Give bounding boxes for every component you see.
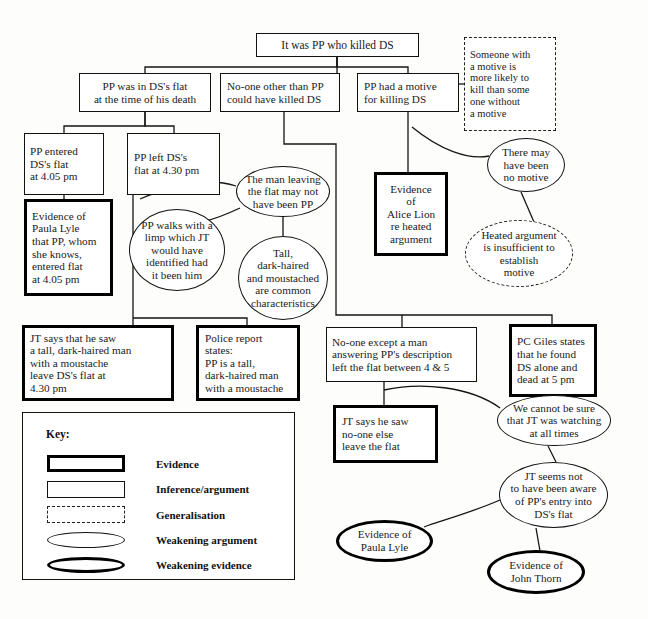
key-label: Evidence <box>156 458 199 470</box>
diagram-node-label: Police report states: PP is a tall, dark… <box>205 332 291 395</box>
diagram-node-n17[interactable]: No-one except a man answering PP's descr… <box>326 327 477 382</box>
diagram-node-label: PP had a motive for killing DS <box>364 80 452 105</box>
connector-n13-to-n14 <box>521 192 534 222</box>
connector-n21-to-n23 <box>536 528 540 551</box>
key-swatch-generalisation-icon <box>47 506 125 523</box>
diagram-node-label: PP entered DS's flat at 4.05 pm <box>30 145 98 183</box>
diagram-node-n8[interactable]: Evidence of Paula Lyle that PP, whom she… <box>24 199 113 296</box>
diagram-node-n19[interactable]: JT says he saw no-one else leave the fla… <box>333 405 438 463</box>
diagram-node-label: Someone with a motive is more likely to … <box>470 49 550 120</box>
diagram-node-label: Evidence of John Thorn <box>494 559 578 584</box>
diagram-node-n21[interactable]: JT seems not to have been aware of PP's … <box>499 462 608 528</box>
key-swatch-evidence-icon <box>47 455 125 472</box>
diagram-node-label: PP was in DS's flat at the time of his d… <box>84 80 206 105</box>
diagram-node-label: JT says that he saw a tall, dark-haired … <box>30 332 166 395</box>
key-label: Weakening argument <box>156 534 257 546</box>
diagram-node-label: PC Giles states that he found DS alone a… <box>517 335 589 385</box>
connector-n17-to-n18 <box>402 315 552 324</box>
diagram-node-label: No-one other than PP could have killed D… <box>227 80 333 105</box>
key-label: Weakening evidence <box>156 559 252 571</box>
key-row-inference: Inference/argument <box>47 481 249 498</box>
diagram-node-label: There may have been no motive <box>492 146 560 184</box>
key-row-evidence: Evidence <box>47 455 199 472</box>
diagram-node-label: PP walks with a limp which JT would have… <box>136 219 218 282</box>
diagram-node-n10[interactable]: PP walks with a limp which JT would have… <box>129 209 225 291</box>
diagram-node-label: JT says he saw no-one else leave the fla… <box>342 415 429 453</box>
diagram-node-n22[interactable]: Evidence of Paula Lyle <box>336 520 433 562</box>
diagram-node-n14[interactable]: Heated argument is insufficient to estab… <box>465 220 573 287</box>
key-swatch-inference-icon <box>47 481 125 498</box>
diagram-node-n15[interactable]: JT says that he saw a tall, dark-haired … <box>22 325 174 401</box>
connector-n4-to-n13 <box>412 127 489 157</box>
key-row-generalisation: Generalisation <box>47 506 225 523</box>
diagram-node-n1[interactable]: It was PP who killed DS <box>256 33 419 57</box>
connector-n1-to-n2 <box>145 57 337 73</box>
diagram-node-n4[interactable]: PP had a motive for killing DS <box>357 73 459 112</box>
connector-n20-to-n21 <box>548 446 556 462</box>
diagram-node-n12[interactable]: Evidence of Alice Lion re heated argumen… <box>374 172 448 256</box>
diagram-node-n13[interactable]: There may have been no motive <box>487 138 565 192</box>
diagram-node-label: Heated argument is insufficient to estab… <box>470 229 568 278</box>
key-swatch-wk-argument-icon <box>47 532 125 548</box>
diagram-node-label: PP left DS's flat at 4.30 pm <box>134 151 213 176</box>
connector-n2-to-n6 <box>64 112 145 133</box>
diagram-node-n16[interactable]: Police report states: PP is a tall, dark… <box>196 325 300 401</box>
diagram-node-label: The man leaving the flat may not have be… <box>243 173 323 211</box>
diagram-node-label: Evidence of Paula Lyle <box>343 528 426 553</box>
diagram-node-n9[interactable]: The man leaving the flat may not have be… <box>236 166 330 217</box>
diagram-node-n23[interactable]: Evidence of John Thorn <box>487 550 585 594</box>
diagram-node-n5[interactable]: Someone with a motive is more likely to … <box>464 37 556 131</box>
key-title: Key: <box>46 428 70 440</box>
key-row-wk-evidence: Weakening evidence <box>47 557 252 573</box>
diagram-node-n6[interactable]: PP entered DS's flat at 4.05 pm <box>24 133 104 195</box>
diagram-node-n20[interactable]: We cannot be sure that JT was watching a… <box>497 395 611 446</box>
diagram-node-n7[interactable]: PP left DS's flat at 4.30 pm <box>127 133 220 195</box>
diagram-node-label: Tall, dark-haired and moustached are com… <box>243 247 323 310</box>
key-label: Inference/argument <box>156 483 249 495</box>
connector-n2-to-n7 <box>145 112 174 133</box>
argument-map-canvas: It was PP who killed DSPP was in DS's fl… <box>0 0 648 619</box>
connector-n15-to-n16 <box>133 318 247 325</box>
key-label: Generalisation <box>156 509 225 521</box>
diagram-node-label: No-one except a man answering PP's descr… <box>332 336 471 374</box>
diagram-node-n11[interactable]: Tall, dark-haired and moustached are com… <box>238 236 328 320</box>
diagram-node-n2[interactable]: PP was in DS's flat at the time of his d… <box>79 73 211 112</box>
diagram-node-label: Evidence of Alice Lion re heated argumen… <box>381 183 441 246</box>
connector-n1-to-n4 <box>337 57 408 73</box>
diagram-node-n3[interactable]: No-one other than PP could have killed D… <box>220 73 340 112</box>
key-swatch-wk-evidence-icon <box>47 557 125 573</box>
connector-n21-to-n22 <box>424 500 500 527</box>
key-row-wk-argument: Weakening argument <box>47 532 257 548</box>
diagram-node-label: Evidence of Paula Lyle that PP, whom she… <box>32 210 105 285</box>
diagram-node-label: It was PP who killed DS <box>261 39 414 52</box>
diagram-node-label: We cannot be sure that JT was watching a… <box>502 402 606 440</box>
diagram-node-label: JT seems not to have been aware of PP's … <box>504 470 603 520</box>
diagram-node-n18[interactable]: PC Giles states that he found DS alone a… <box>509 324 597 397</box>
